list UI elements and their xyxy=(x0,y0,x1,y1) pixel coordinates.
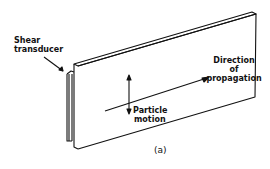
plate-side-edge xyxy=(74,64,78,149)
shear-transducer xyxy=(67,71,74,141)
label-line: motion xyxy=(133,115,167,124)
label-line: Direction xyxy=(204,56,264,65)
direction-label: Direction of propagation xyxy=(204,56,264,83)
shear-transducer-label: Shear transducer xyxy=(14,36,63,54)
label-line: Shear xyxy=(14,36,63,45)
figure-caption: (a) xyxy=(154,146,167,155)
particle-motion-label: Particle motion xyxy=(133,106,167,124)
label-line: transducer xyxy=(14,45,63,54)
label-line: of xyxy=(204,65,264,74)
label-line: propagation xyxy=(204,74,264,83)
label-line: Particle xyxy=(133,106,167,115)
plate-drawing xyxy=(0,0,270,169)
diagram-figure: Shear transducer Direction of propagatio… xyxy=(0,0,270,169)
